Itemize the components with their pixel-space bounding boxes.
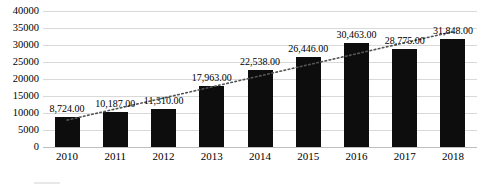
y-axis-tick-label: 25000 (0, 57, 39, 67)
y-axis-tick-label: 35000 (0, 23, 39, 33)
chart-title (120, 0, 460, 1)
x-axis-tick-label: 2016 (345, 150, 367, 163)
x-axis-tick-label: 2013 (201, 150, 223, 163)
y-axis-tick-label: 0 (0, 142, 39, 152)
bar-data-label: 11,310.00 (144, 96, 184, 106)
y-axis-tick-label: 20000 (0, 74, 39, 84)
bar-data-label: 26,446.00 (288, 44, 328, 54)
legend-line-swatch (34, 182, 60, 184)
y-axis-tick-label: 40000 (0, 6, 39, 16)
gridline (43, 147, 477, 148)
y-axis-tick-label: 15000 (0, 91, 39, 101)
x-axis-tick-label: 2010 (56, 150, 78, 163)
x-axis-tick-label: 2011 (105, 150, 127, 163)
x-axis: 201020112012201320142015201620172018 (43, 150, 477, 166)
y-axis-tick-label: 5000 (0, 125, 39, 135)
bar-data-label: 17,963.00 (192, 73, 232, 83)
x-axis-tick-label: 2014 (249, 150, 271, 163)
bar-data-label: 28,775.00 (385, 36, 425, 46)
y-axis: 0500010000150002000025000300003500040000 (0, 11, 39, 147)
plot-area: 8,724.0010,187.0011,310.0017,963.0022,53… (43, 11, 477, 147)
x-axis-tick-label: 2012 (153, 150, 175, 163)
data-labels-layer: 8,724.0010,187.0011,310.0017,963.0022,53… (43, 11, 477, 147)
bar-data-label: 8,724.00 (50, 104, 85, 114)
x-axis-tick-label: 2018 (442, 150, 464, 163)
chart-legend (34, 178, 65, 185)
bar-data-label: 31,848.00 (433, 26, 473, 36)
x-axis-tick-label: 2015 (297, 150, 319, 163)
x-axis-tick-label: 2017 (394, 150, 416, 163)
y-axis-tick-label: 30000 (0, 40, 39, 50)
y-axis-tick-label: 10000 (0, 108, 39, 118)
bar-data-label: 22,538.00 (240, 57, 280, 67)
bar-data-label: 30,463.00 (336, 30, 376, 40)
bar-data-label: 10,187.00 (95, 99, 135, 109)
bar-chart: 0500010000150002000025000300003500040000… (0, 0, 482, 185)
